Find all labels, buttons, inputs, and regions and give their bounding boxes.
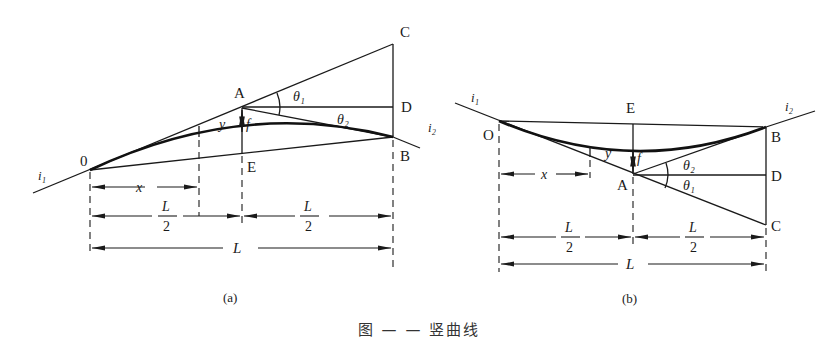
svg-text:2: 2 — [566, 240, 573, 255]
point-o-label-a: 0 — [80, 153, 88, 169]
point-e-label-b: E — [626, 100, 635, 116]
point-d-label-a: D — [401, 99, 412, 115]
svg-text:2: 2 — [163, 219, 170, 234]
svg-text:L: L — [688, 220, 697, 235]
angle-arc-theta2-b — [666, 163, 668, 175]
angle-theta2-label-b: θ₂ — [683, 158, 695, 173]
svg-text:2: 2 — [690, 240, 697, 255]
dim-half-left-label-a: L 2 — [158, 199, 177, 234]
point-c-label-b: C — [771, 218, 781, 234]
svg-text:L: L — [161, 199, 170, 214]
point-c-label-a: C — [400, 24, 410, 40]
figure-caption: 图 — — 竖曲线 — [0, 318, 838, 339]
offset-y-label-b: y — [603, 146, 612, 161]
point-d-label-b: D — [771, 168, 782, 184]
grade-i2-label-a: i₂ — [428, 120, 437, 135]
grade-i2-label-b: i₂ — [785, 99, 794, 114]
svg-text:L: L — [564, 220, 573, 235]
svg-text:L: L — [303, 199, 312, 214]
angle-theta2-label-a: θ₂ — [337, 112, 349, 127]
panel-a: 0 A C D B E i₁ i₂ θ₁ θ₂ y f x L 2 L 2 L … — [33, 24, 437, 305]
dim-total-label-b: L — [625, 256, 634, 272]
dim-half-left-label-b: L 2 — [561, 220, 580, 255]
offset-f-label-b: f — [637, 151, 643, 166]
dim-half-right-label-a: L 2 — [300, 199, 319, 234]
point-b-label-b: B — [771, 129, 781, 145]
point-o-label-b: O — [483, 127, 494, 143]
offset-y-label-a: y — [217, 117, 226, 132]
panel-label-a: (a) — [223, 290, 237, 305]
grade-i1-label-b: i₁ — [471, 90, 479, 105]
dim-half-right-label-b: L 2 — [685, 220, 704, 255]
panel-label-b: (b) — [622, 291, 637, 306]
point-a-label-b: A — [617, 177, 628, 193]
angle-arc-theta1-a — [277, 93, 280, 107]
angle-theta1-label-b: θ₁ — [683, 178, 695, 193]
svg-text:2: 2 — [305, 219, 312, 234]
point-a-label-a: A — [234, 85, 245, 101]
dim-x-label-b: x — [540, 167, 548, 182]
point-e-label-a: E — [247, 159, 256, 175]
grade-line-i2 — [393, 137, 420, 148]
dim-total-label-a: L — [232, 240, 241, 256]
point-b-label-a: B — [400, 148, 410, 164]
panel-b: O E B D C A i₁ i₂ θ₂ θ₁ y f x L 2 L 2 L … — [455, 90, 815, 306]
grade-i1-label-a: i₁ — [38, 168, 46, 183]
angle-theta1-label-a: θ₁ — [293, 89, 305, 104]
dim-x-label-a: x — [135, 180, 143, 195]
angle-arc-theta2-a — [279, 107, 280, 115]
